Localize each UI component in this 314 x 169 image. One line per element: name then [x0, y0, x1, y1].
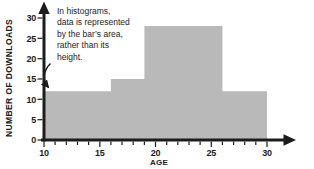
- x-axis-arrow-icon: [284, 134, 297, 145]
- x-tick-label: 20: [151, 148, 161, 158]
- x-tick-label: 10: [39, 148, 49, 158]
- y-axis-label: NUMBER OF DOWNLOADS: [4, 19, 14, 137]
- x-tick-label: 15: [95, 148, 105, 158]
- x-tick-label: 30: [262, 148, 272, 158]
- y-tick-label: 30: [27, 13, 37, 23]
- y-tick-label: 0: [31, 135, 36, 145]
- y-tick-label: 5: [31, 115, 36, 125]
- x-tick-label: 25: [207, 148, 217, 158]
- histogram-figure: 1015202530 051015202530 AGE NUMBER OF DO…: [0, 0, 314, 169]
- y-tick-label: 25: [27, 34, 37, 44]
- annotation-note: In histograms, data is represented by th…: [57, 6, 161, 63]
- y-tick-label: 20: [27, 54, 37, 64]
- y-axis-arrow-icon: [38, 2, 49, 15]
- y-tick-label: 10: [27, 95, 37, 105]
- y-tick-label: 15: [27, 74, 37, 84]
- x-axis-label: AGE: [150, 158, 168, 167]
